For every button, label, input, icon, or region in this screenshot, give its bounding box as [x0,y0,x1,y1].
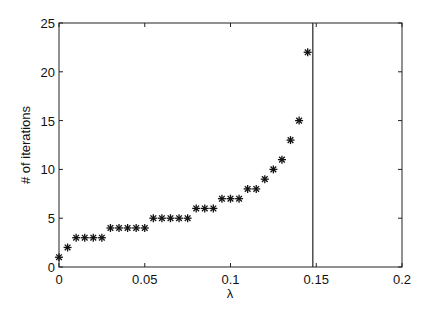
asterisk-marker [55,253,63,261]
y-tick-label: 20 [41,65,55,80]
asterisk-marker [132,224,140,232]
asterisk-marker [98,234,106,242]
asterisk-marker [192,204,200,212]
asterisk-marker [106,224,114,232]
y-tick-label: 0 [48,260,55,275]
asterisk-marker [304,48,312,56]
x-tick-label: 0.2 [393,272,411,287]
y-tick-label: 15 [41,114,55,129]
asterisk-marker [89,234,97,242]
asterisk-marker [218,195,226,203]
asterisk-marker [209,204,217,212]
asterisk-marker [278,156,286,164]
asterisk-marker [252,185,260,193]
x-tick-label: 0 [55,272,62,287]
y-tick-label: 5 [48,211,55,226]
asterisk-marker [295,117,303,125]
y-axis-label: # of iterations [18,105,33,184]
asterisk-marker [149,214,157,222]
iterations-vs-lambda-chart: 00.050.10.150.2 0510152025 λ # of iterat… [0,0,432,314]
asterisk-marker [81,234,89,242]
asterisk-marker [72,234,80,242]
asterisk-marker [124,224,132,232]
asterisk-marker [244,185,252,193]
x-tick-label: 0.15 [304,272,329,287]
asterisk-marker [261,175,269,183]
asterisk-marker [287,136,295,144]
y-tick-label: 10 [41,162,55,177]
asterisk-marker [184,214,192,222]
asterisk-marker [227,195,235,203]
x-tick-label: 0.1 [221,272,239,287]
asterisk-marker [141,224,149,232]
asterisk-marker [201,204,209,212]
x-axis-label: λ [227,286,234,301]
asterisk-marker [158,214,166,222]
asterisk-marker [175,214,183,222]
asterisk-marker [269,165,277,173]
asterisk-marker [64,243,72,251]
asterisk-marker [166,214,174,222]
asterisk-marker [115,224,123,232]
asterisk-marker [235,195,243,203]
y-tick-label: 25 [41,16,55,31]
x-tick-label: 0.05 [132,272,157,287]
